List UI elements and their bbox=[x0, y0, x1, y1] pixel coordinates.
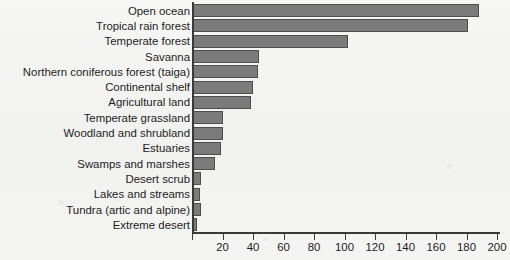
x-axis-tick-label: 180 bbox=[457, 241, 476, 253]
x-axis-tick bbox=[284, 234, 285, 240]
x-axis-tick bbox=[467, 234, 468, 240]
bar-row: Lakes and streams bbox=[0, 187, 510, 202]
x-axis-tick bbox=[375, 234, 376, 240]
bar-row: Savanna bbox=[0, 49, 510, 64]
plot-area: Open oceanTropical rain forestTemperate … bbox=[0, 0, 510, 260]
bar-track bbox=[192, 96, 497, 109]
category-label: Savanna bbox=[145, 51, 190, 63]
x-axis-tick bbox=[314, 234, 315, 240]
bar bbox=[192, 157, 215, 170]
category-label: Estuaries bbox=[143, 142, 190, 154]
bar bbox=[192, 65, 258, 78]
bar-track bbox=[192, 19, 497, 32]
bar bbox=[192, 127, 223, 140]
y-axis-spine bbox=[192, 2, 194, 232]
x-axis-tick bbox=[345, 234, 346, 240]
bar-track bbox=[192, 35, 497, 48]
bar bbox=[192, 35, 348, 48]
bar bbox=[192, 142, 221, 155]
bar-track bbox=[192, 127, 497, 140]
bar-track bbox=[192, 157, 497, 170]
x-axis-tick bbox=[497, 234, 498, 240]
category-label: Open ocean bbox=[128, 5, 190, 17]
bar-row: Northern coniferous forest (taiga) bbox=[0, 64, 510, 79]
x-axis-tick-label: 200 bbox=[487, 241, 506, 253]
bar-track bbox=[192, 81, 497, 94]
category-label: Tropical rain forest bbox=[96, 20, 190, 32]
x-axis-tick-label: 120 bbox=[365, 241, 384, 253]
category-label: Temperate forest bbox=[105, 35, 190, 47]
bar-row: Estuaries bbox=[0, 141, 510, 156]
bar-row: Extreme desert bbox=[0, 217, 510, 232]
x-axis-tick-label: 80 bbox=[308, 241, 321, 253]
bar-track bbox=[192, 142, 497, 155]
bar-track bbox=[192, 218, 497, 231]
bar bbox=[192, 4, 479, 17]
x-axis-tick bbox=[223, 234, 224, 240]
bar-row: Desert scrub bbox=[0, 171, 510, 186]
category-label: Swamps and marshes bbox=[77, 158, 190, 170]
x-axis-tick bbox=[192, 234, 193, 240]
x-axis-tick bbox=[436, 234, 437, 240]
x-axis-tick-label: 20 bbox=[216, 241, 229, 253]
category-label: Agricultural land bbox=[108, 96, 190, 108]
bar bbox=[192, 19, 468, 32]
x-axis-line bbox=[192, 232, 500, 234]
bar-track bbox=[192, 4, 497, 17]
bar-row: Agricultural land bbox=[0, 95, 510, 110]
bar-row: Continental shelf bbox=[0, 80, 510, 95]
bar-track bbox=[192, 65, 497, 78]
x-axis-tick-label: 60 bbox=[277, 241, 290, 253]
bar-track bbox=[192, 111, 497, 124]
x-axis-tick-label: 160 bbox=[426, 241, 445, 253]
category-label: Desert scrub bbox=[125, 173, 190, 185]
bar-row: Temperate grassland bbox=[0, 110, 510, 125]
x-axis-tick-label: 100 bbox=[335, 241, 354, 253]
bar-row: Tundra (artic and alpine) bbox=[0, 202, 510, 217]
category-label: Continental shelf bbox=[105, 81, 190, 93]
x-axis-tick bbox=[406, 234, 407, 240]
bar-track bbox=[192, 188, 497, 201]
bar-row: Tropical rain forest bbox=[0, 18, 510, 33]
bar-track bbox=[192, 50, 497, 63]
category-label: Northern coniferous forest (taiga) bbox=[23, 66, 190, 78]
x-axis-tick-label: 140 bbox=[396, 241, 415, 253]
bar bbox=[192, 111, 223, 124]
bar-row: Swamps and marshes bbox=[0, 156, 510, 171]
x-axis-tick-label: 40 bbox=[247, 241, 260, 253]
bar-track bbox=[192, 203, 497, 216]
category-label: Temperate grassland bbox=[84, 112, 190, 124]
bar-track bbox=[192, 172, 497, 185]
category-label: Tundra (artic and alpine) bbox=[66, 204, 190, 216]
bar-row: Temperate forest bbox=[0, 34, 510, 49]
category-label: Woodland and shrubland bbox=[64, 127, 190, 139]
bar bbox=[192, 81, 253, 94]
bar-row: Woodland and shrubland bbox=[0, 125, 510, 140]
bar bbox=[192, 96, 251, 109]
bar-chart-figure: Open oceanTropical rain forestTemperate … bbox=[0, 0, 510, 260]
bar bbox=[192, 50, 259, 63]
category-label: Extreme desert bbox=[113, 219, 190, 231]
bar-row: Open ocean bbox=[0, 3, 510, 18]
x-axis-tick bbox=[253, 234, 254, 240]
category-label: Lakes and streams bbox=[94, 188, 190, 200]
